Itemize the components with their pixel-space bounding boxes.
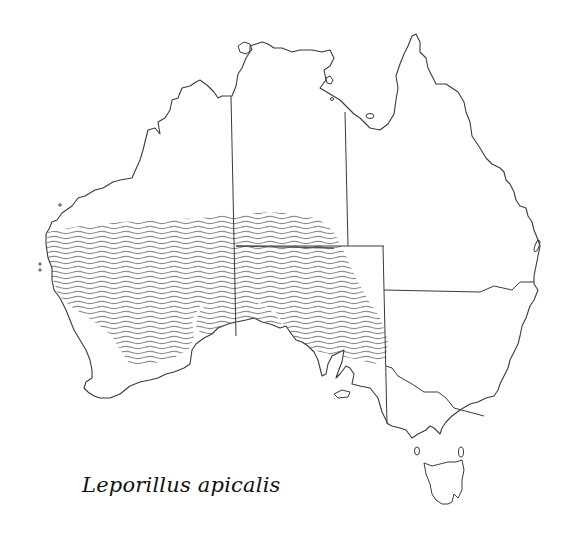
flinders-island [459,447,464,457]
abrolhos-island [39,263,41,265]
barrow-island [59,204,61,206]
mornington-island [366,114,374,119]
qld-nsw-border [384,282,534,292]
distribution-range [0,0,568,546]
king-island [415,447,420,455]
species-name-caption: Leporillus apicalis [82,473,281,497]
abrolhos-island-2 [39,269,41,271]
kangaroo-island [334,390,350,398]
australia-distribution-map [0,0,568,546]
nt-qld-border [345,112,348,246]
nsw-vic-border [386,366,484,416]
small-island-nt [331,98,334,101]
groote-eylandt [326,76,333,84]
tasmania [424,460,464,504]
